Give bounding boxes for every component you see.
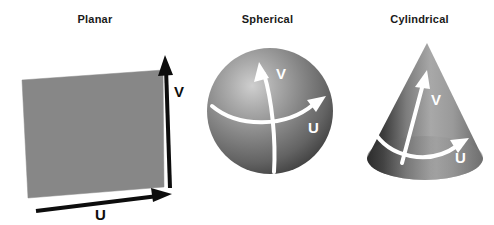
panel-planar: Planar V U: [0, 0, 190, 225]
cylindrical-diagram: [345, 0, 494, 225]
cone-v-axis-label: V: [431, 92, 441, 107]
cone-u-axis-label: U: [455, 150, 466, 165]
spherical-diagram: [190, 0, 345, 225]
sphere-u-axis-label: U: [308, 120, 319, 135]
planar-v-axis-label: V: [174, 84, 184, 99]
panel-spherical: Spherical: [190, 0, 345, 225]
planar-quad: [22, 70, 164, 198]
planar-diagram: [0, 0, 190, 225]
planar-u-axis-label: U: [95, 207, 106, 222]
texture-mapping-figure: Planar V U Spherical: [0, 0, 494, 225]
panel-cylindrical: Cylindrical: [345, 0, 494, 225]
sphere-v-axis-label: V: [276, 66, 286, 81]
